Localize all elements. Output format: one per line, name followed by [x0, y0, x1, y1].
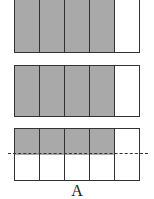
half-shaded-cell: [90, 129, 115, 180]
fraction-bar-2: [14, 65, 140, 117]
dashed-midline: [8, 153, 148, 154]
fraction-bar-1: [14, 0, 140, 53]
fraction-bar-3: [14, 128, 140, 181]
half-shaded-cell: [65, 129, 90, 180]
half-shaded-cell: [15, 129, 40, 180]
shaded-cell: [15, 0, 40, 52]
shaded-cell: [40, 0, 65, 52]
shaded-cell: [90, 0, 115, 52]
shaded-cell: [90, 66, 115, 116]
empty-cell: [115, 66, 139, 116]
shaded-cell: [65, 66, 90, 116]
shaded-cell: [65, 0, 90, 52]
shaded-cell: [15, 66, 40, 116]
shaded-cell: [40, 66, 65, 116]
empty-cell: [115, 0, 139, 52]
empty-cell: [115, 129, 139, 180]
half-shaded-cell: [40, 129, 65, 180]
figure-label: A: [0, 182, 154, 199]
